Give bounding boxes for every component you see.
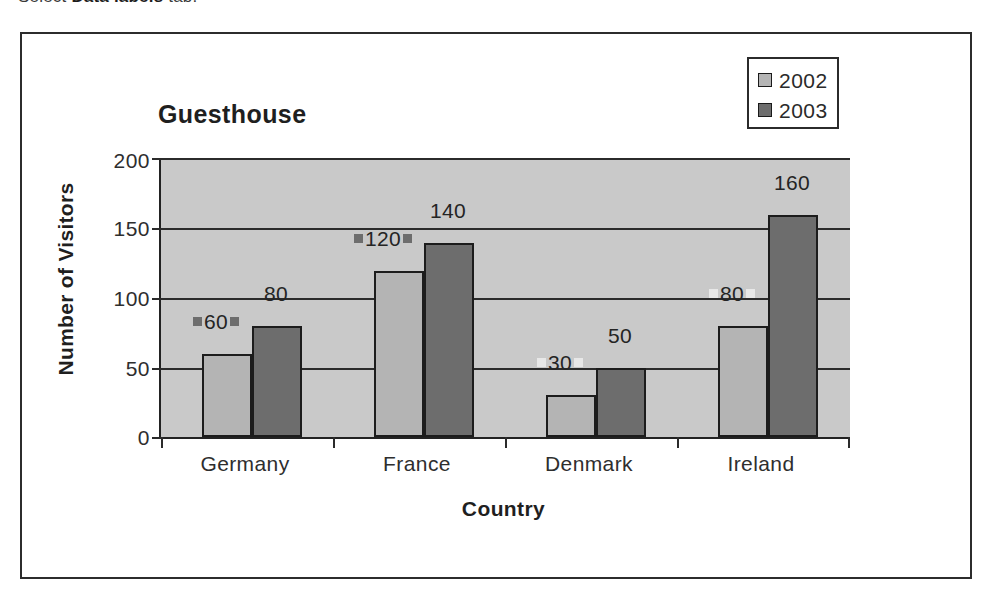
data-label-germany-2003: 80	[241, 282, 311, 306]
data-label-france-2003: 140	[413, 199, 483, 223]
x-tick-label-germany: Germany	[159, 452, 331, 476]
x-tick-label-ireland: Ireland	[675, 452, 847, 476]
bar-germany-2003[interactable]	[252, 326, 302, 437]
data-label-denmark-2003: 50	[585, 324, 655, 348]
instruction-bold: Data labels	[71, 0, 163, 6]
y-tick-label-200: 200	[88, 149, 150, 173]
data-label-ireland-2002: 80	[697, 282, 767, 306]
instruction-suffix: tab.	[163, 0, 197, 6]
bar-ireland-2002[interactable]	[718, 326, 768, 437]
bar-denmark-2002[interactable]	[546, 395, 596, 437]
instruction-prefix: Select	[18, 0, 71, 6]
x-tick-mark-3	[677, 437, 679, 448]
legend-label-2002: 2002	[779, 70, 828, 91]
y-tick-label-0: 0	[88, 426, 150, 450]
legend-swatch-2003	[758, 103, 772, 117]
x-tick-label-denmark: Denmark	[503, 452, 675, 476]
bar-denmark-2003[interactable]	[596, 368, 646, 437]
gridline-150	[161, 228, 850, 230]
y-tick-mark-150	[152, 228, 161, 230]
x-tick-mark-2	[505, 437, 507, 448]
x-axis-title: Country	[159, 497, 848, 521]
bar-ireland-2003[interactable]	[768, 215, 818, 437]
legend-entry-2003[interactable]: 2003	[758, 95, 837, 125]
bar-germany-2002[interactable]	[202, 354, 252, 437]
y-tick-mark-100	[152, 298, 161, 300]
legend-label-2003: 2003	[779, 100, 828, 121]
bar-france-2003[interactable]	[424, 243, 474, 437]
data-label-denmark-2002: 30	[525, 351, 595, 375]
screenshot-root: Select Data labels tab. Guesthouse 2002 …	[0, 0, 995, 607]
data-label-ireland-2003: 160	[757, 171, 827, 195]
x-tick-mark-4	[848, 437, 850, 448]
y-tick-label-150: 150	[88, 217, 150, 241]
legend-entry-2002[interactable]: 2002	[758, 65, 837, 95]
y-tick-label-100: 100	[88, 287, 150, 311]
x-tick-mark-1	[333, 437, 335, 448]
x-tick-label-france: France	[331, 452, 503, 476]
data-label-germany-2002: 60	[181, 310, 251, 334]
y-tick-mark-200	[152, 158, 161, 160]
gridline-200	[161, 158, 850, 160]
legend-swatch-2002	[758, 73, 772, 87]
y-tick-mark-50	[152, 368, 161, 370]
y-tick-label-50: 50	[88, 357, 150, 381]
chart-legend[interactable]: 2002 2003	[747, 57, 839, 129]
data-label-france-2002: 120	[348, 227, 418, 251]
bar-france-2002[interactable]	[374, 271, 424, 437]
y-axis-title: Number of Visitors	[54, 149, 78, 409]
instruction-text: Select Data labels tab.	[18, 0, 197, 7]
y-tick-mark-0	[152, 437, 161, 439]
x-tick-mark-0	[161, 437, 163, 448]
chart-title: Guesthouse	[158, 100, 478, 129]
